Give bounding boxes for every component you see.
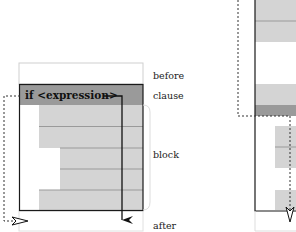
block-bar — [255, 21, 296, 42]
block-bar — [60, 148, 143, 169]
block-bars — [39, 105, 143, 210]
block-bar — [255, 0, 296, 21]
block-bar — [275, 126, 296, 147]
label-block: block — [153, 149, 179, 160]
if-statement-diagram: if <expression> before clause block afte… — [0, 0, 296, 232]
right-figure — [238, 0, 296, 231]
before-region — [19, 63, 143, 84]
block-bar — [60, 169, 143, 190]
block-bar — [39, 190, 143, 210]
block-bar — [275, 147, 296, 168]
after-region — [19, 211, 143, 231]
block-bar — [255, 84, 296, 105]
left-figure: if <expression> before clause block afte… — [4, 63, 184, 231]
clause-row — [255, 105, 296, 116]
label-before: before — [153, 70, 184, 81]
clause-code-text: if <expression> — [25, 89, 118, 101]
block-bar — [39, 105, 143, 126]
label-after: after — [153, 220, 177, 231]
block-bracket — [143, 105, 150, 210]
label-clause: clause — [153, 90, 184, 101]
block-bar — [39, 127, 143, 148]
false-path-arrow — [4, 96, 20, 221]
